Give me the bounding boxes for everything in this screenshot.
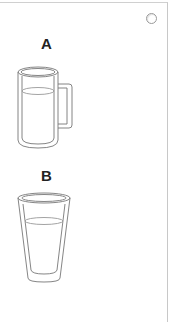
glass-icon	[14, 190, 84, 290]
option-b-label: B	[41, 167, 52, 184]
radio-button[interactable]	[146, 13, 157, 24]
option-a-label: A	[41, 35, 52, 52]
mug-icon	[14, 62, 94, 152]
